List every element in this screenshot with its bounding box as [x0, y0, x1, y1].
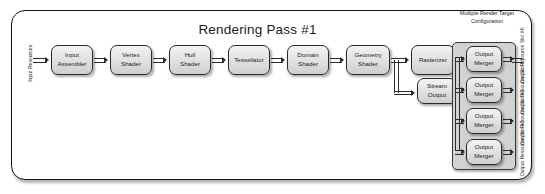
arrowhead-bus-to-om0	[461, 56, 465, 62]
arrowhead-ds-to-gs	[340, 57, 344, 63]
stage-tessellator[interactable]: Tessellator	[228, 45, 270, 75]
wire-mrt-bus-2	[459, 57, 460, 151]
arrowhead-bus-to-om1	[461, 87, 465, 93]
output-merger-0[interactable]: Output Merger	[466, 46, 502, 72]
stage-input-assembler[interactable]: Input Assembler	[51, 45, 93, 75]
arrowhead-gs-to-rast	[405, 57, 409, 63]
stage-hull-shader[interactable]: Hull Shader	[169, 45, 211, 75]
arrowhead-om1-to-slot1	[510, 87, 514, 93]
arrowhead-input-to-ia	[45, 57, 49, 63]
wire-gs-branch-vertical	[394, 60, 395, 93]
output-merger-1[interactable]: Output Merger	[466, 77, 502, 103]
pipeline-diagram: Rendering Pass #1 Input Resources Input …	[0, 0, 545, 194]
arrowhead-om0-to-slot0	[510, 56, 514, 62]
stage-vertex-shader[interactable]: Vertex Shader	[110, 45, 152, 75]
arrowhead-om2-to-slot2	[510, 118, 514, 124]
page-title: Rendering Pass #1	[120, 22, 395, 37]
wire-mrt-bus-1	[455, 57, 456, 151]
arrowhead-vs-to-hs	[163, 57, 167, 63]
arrowhead-bus-to-om2	[461, 118, 465, 124]
arrowhead-hs-to-ts	[222, 57, 226, 63]
stage-domain-shader[interactable]: Domain Shader	[287, 45, 329, 75]
output-merger-2[interactable]: Output Merger	[466, 108, 502, 134]
arrowhead-om3-to-slot3	[510, 149, 514, 155]
stage-rasterizer[interactable]: Rasterizer	[411, 45, 455, 75]
arrowhead-ts-to-ds	[281, 57, 285, 63]
wire-gs-branch-vertical-2	[398, 60, 399, 93]
stage-stream-output[interactable]: Stream Output	[417, 78, 457, 104]
output-resource-slot-3-label: Output Resource Slot #3	[519, 132, 526, 176]
input-resources-label: Input Resources	[27, 41, 34, 85]
stage-geometry-shader[interactable]: Geometry Shader	[346, 45, 390, 75]
output-merger-3[interactable]: Output Merger	[466, 139, 502, 165]
arrowhead-gs-to-so	[411, 90, 415, 96]
mrt-configuration-title: Multiple Render Target Configuration	[448, 10, 526, 25]
arrowhead-ia-to-vs	[104, 57, 108, 63]
arrowhead-bus-to-om3	[461, 149, 465, 155]
